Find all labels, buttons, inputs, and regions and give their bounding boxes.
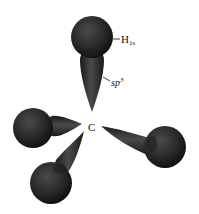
bond-left [13,108,82,148]
sp3-lobe-top [80,50,104,112]
sp3-label: sp3 [111,76,124,88]
carbon-label: C [88,121,95,133]
bond-top [71,16,113,112]
h1s-sphere-left [13,108,53,148]
h1s-label: H1s [121,33,135,47]
sp3-leader-line [103,77,110,81]
bond-right [101,126,186,168]
methane-orbital-diagram: H1s sp3 C [0,0,199,214]
